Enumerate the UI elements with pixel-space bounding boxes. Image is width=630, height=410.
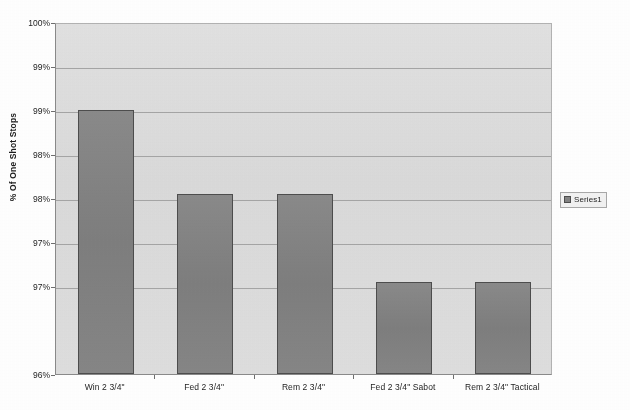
bar: [177, 194, 233, 374]
y-axis-tick-mark: [51, 375, 55, 376]
x-axis-tick-mark: [154, 375, 155, 379]
x-axis-tick-mark: [453, 375, 454, 379]
y-axis-tick-label: 96%: [4, 370, 50, 380]
legend: Series1: [560, 192, 607, 208]
x-axis-tick-mark: [254, 375, 255, 379]
bar: [376, 282, 432, 374]
y-axis-tick-label: 98%: [4, 150, 50, 160]
y-axis-tick-label: 97%: [4, 238, 50, 248]
y-axis-tick-label: 97%: [4, 282, 50, 292]
chart-title: [0, 0, 630, 3]
bar: [277, 194, 333, 374]
bar: [475, 282, 531, 374]
x-axis-tick-label: Rem 2 3/4" Tactical: [422, 382, 582, 392]
plot-area: [55, 23, 552, 375]
y-axis-tick-label: 99%: [4, 106, 50, 116]
y-axis-tick-label: 99%: [4, 62, 50, 72]
y-axis-tick-label: 100%: [4, 18, 50, 28]
gridline: [56, 68, 551, 69]
chart-figure: % Of One Shot Stops 100%99%99%98%98%97%9…: [0, 0, 630, 410]
legend-label-series1: Series1: [574, 195, 602, 204]
bar: [78, 110, 134, 374]
y-axis-tick-label: 98%: [4, 194, 50, 204]
x-axis-tick-mark: [353, 375, 354, 379]
legend-swatch-series1: [564, 196, 571, 203]
